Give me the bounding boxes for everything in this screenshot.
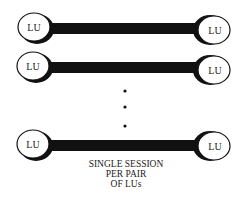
caption-line-3: OF LUs — [111, 179, 142, 189]
caption-line-1: SINGLE SESSION — [89, 159, 164, 169]
session-bar — [48, 140, 198, 151]
caption-line-2: PER PAIR — [106, 169, 147, 179]
caption: SINGLE SESSION PER PAIR OF LUs — [89, 159, 164, 189]
session-pair-3: LU LU — [17, 130, 230, 161]
ellipsis-dots — [123, 89, 126, 127]
session-bar — [48, 62, 198, 73]
lu-label: LU — [208, 141, 222, 152]
lu-label: LU — [208, 65, 222, 76]
session-pair-2: LU LU — [17, 52, 230, 85]
lu-label: LU — [208, 25, 222, 36]
lu-label: LU — [26, 61, 40, 72]
lu-label: LU — [27, 22, 41, 33]
session-pair-1: LU LU — [18, 13, 230, 45]
session-bar — [48, 23, 198, 34]
lu-session-diagram: LU LU LU LU LU LU SINGLE SESSION PER PAI… — [0, 0, 247, 202]
lu-label: LU — [26, 139, 40, 150]
